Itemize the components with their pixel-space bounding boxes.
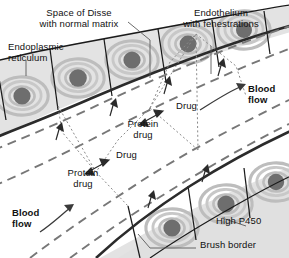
diagram-canvas: Space of Disse with normal matrix Endoth… [0,0,289,258]
label-brush-border: Brush border [200,240,256,251]
label-blood-flow-bottom: Blood flow [12,208,52,229]
blood-flow-arrowhead-top [236,83,246,91]
label-drug-lower: Drug [116,150,137,161]
label-protein-drug-lower: Protein drug [60,168,106,189]
label-space-of-disse: Space of Disse with normal matrix [28,8,130,29]
hepatocyte-band-lower [96,128,289,258]
blood-flow-arrow-top [200,86,242,110]
label-protein-drug-upper: Protein drug [120,119,166,140]
blood-flow-arrowhead-bottom [64,204,74,212]
label-endothelium: Endothelium with fenestrations [166,8,276,29]
label-drug-upper: Drug [176,101,197,112]
label-high-p450: High P450 [216,216,261,227]
label-endoplasmic-reticulum: Endoplasmic reticulum [8,42,92,63]
label-blood-flow-top: Blood flow [248,84,288,105]
